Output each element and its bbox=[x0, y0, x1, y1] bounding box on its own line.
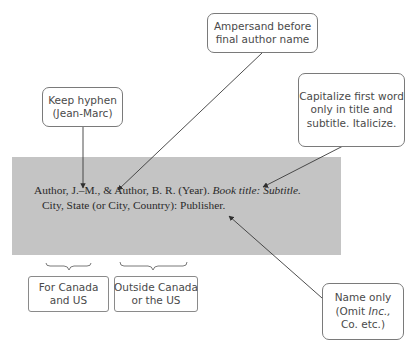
brace-canada-us bbox=[46, 263, 91, 270]
callout-keep-hyphen-line1: Keep hyphen bbox=[48, 94, 117, 108]
omit-text: (Omit bbox=[335, 305, 368, 317]
inc-text: Inc., bbox=[368, 305, 390, 317]
reference-line-1: Author, J.–M., & Author, B. R. (Year). B… bbox=[34, 183, 334, 198]
callout-keep-hyphen: Keep hyphen (Jean-Marc) bbox=[42, 87, 123, 127]
reference-line-2: City, State (or City, Country): Publishe… bbox=[34, 198, 334, 213]
callout-ampersand-line1: Ampersand before bbox=[214, 20, 311, 34]
brace-outside bbox=[120, 262, 187, 270]
reference-example: Author, J.–M., & Author, B. R. (Year). B… bbox=[34, 183, 334, 213]
label-canada-us-line2: and US bbox=[39, 294, 99, 308]
callout-name-only-line3: Co. etc.) bbox=[335, 318, 392, 332]
callout-capitalize: Capitalize first word only in title and … bbox=[298, 73, 405, 147]
label-outside-line1: Outside Canada bbox=[114, 281, 198, 295]
author-year-text: Author, J.–M., & Author, B. R. (Year). bbox=[34, 184, 213, 196]
callout-capitalize-line3: subtitle. Italicize. bbox=[299, 117, 404, 131]
callout-capitalize-line1: Capitalize first word bbox=[299, 90, 404, 104]
callout-name-only: Name only (Omit Inc., Co. etc.) bbox=[322, 283, 404, 340]
label-outside: Outside Canada or the US bbox=[114, 276, 198, 312]
label-canada-us-line1: For Canada bbox=[39, 281, 99, 295]
callout-ampersand: Ampersand before final author name bbox=[207, 13, 318, 53]
callout-capitalize-line2: only in title and bbox=[299, 103, 404, 117]
callout-ampersand-line2: final author name bbox=[214, 33, 311, 47]
label-outside-line2: or the US bbox=[114, 294, 198, 308]
book-title-text: Book title: Subtitle. bbox=[213, 184, 301, 196]
callout-keep-hyphen-line2: (Jean-Marc) bbox=[48, 107, 117, 121]
callout-name-only-line2: (Omit Inc., bbox=[335, 305, 392, 319]
label-canada-us: For Canada and US bbox=[28, 276, 109, 312]
callout-name-only-line1: Name only bbox=[335, 291, 392, 305]
